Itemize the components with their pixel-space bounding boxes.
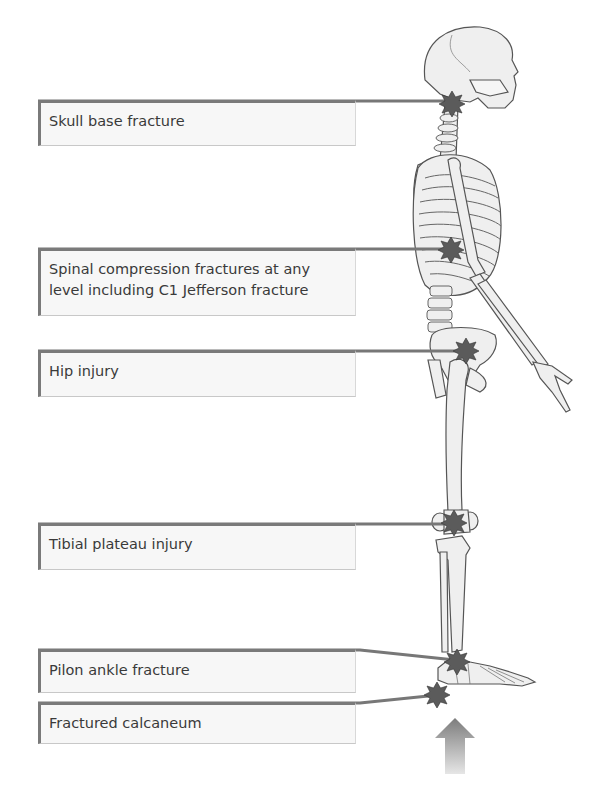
label-hip-injury: Hip injury bbox=[38, 350, 356, 397]
label-skull-base-fracture: Skull base fracture bbox=[38, 100, 356, 146]
label-text: Skull base fracture bbox=[49, 113, 185, 129]
label-text: Tibial plateau injury bbox=[49, 536, 193, 552]
label-tibial-plateau: Tibial plateau injury bbox=[38, 523, 356, 570]
impact-arrow-icon bbox=[435, 718, 475, 774]
label-text-line2: level including C1 Jefferson fracture bbox=[49, 280, 355, 301]
label-pilon-ankle: Pilon ankle fracture bbox=[38, 649, 356, 693]
label-text: Pilon ankle fracture bbox=[49, 662, 190, 678]
skeleton-figure bbox=[413, 27, 572, 686]
label-text: Hip injury bbox=[49, 363, 119, 379]
star-icon bbox=[424, 682, 450, 708]
label-spinal-compression: Spinal compression fractures at any leve… bbox=[38, 248, 356, 316]
label-fractured-calcaneum: Fractured calcaneum bbox=[38, 702, 356, 744]
label-text: Fractured calcaneum bbox=[49, 715, 202, 731]
label-text-line1: Spinal compression fractures at any bbox=[49, 259, 355, 280]
connector-lines bbox=[38, 101, 463, 703]
